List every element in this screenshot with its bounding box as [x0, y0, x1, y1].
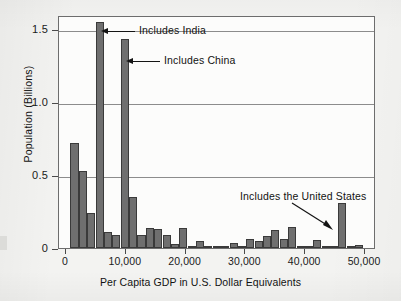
x-tick-mark — [125, 249, 126, 254]
bar — [196, 241, 204, 248]
histogram-bars — [59, 17, 374, 248]
annotation-arrowhead-india — [101, 28, 108, 34]
bar — [338, 203, 346, 248]
bar — [238, 246, 246, 248]
bar — [213, 246, 221, 248]
bar — [96, 22, 104, 248]
x-tick-mark — [304, 249, 305, 254]
plot-area — [58, 16, 375, 249]
x-tick-label: 30,000 — [228, 255, 261, 267]
bar — [163, 235, 171, 248]
annotation-arrowhead-china — [126, 58, 133, 64]
bar — [79, 171, 87, 248]
x-tick-mark — [364, 249, 365, 254]
bar — [347, 246, 355, 248]
y-axis-title: Population (Billions) — [22, 39, 34, 189]
x-tick-mark — [185, 249, 186, 254]
bar — [330, 246, 338, 248]
x-tick-label: 40,000 — [288, 255, 321, 267]
bar — [179, 228, 187, 248]
annotation-label-united-states: Includes the United States — [240, 190, 366, 202]
bar — [263, 236, 271, 248]
x-tick-label: 0 — [62, 255, 68, 267]
y-tick-label: 0 — [2, 242, 48, 254]
x-tick-mark — [244, 249, 245, 254]
bar — [104, 232, 112, 248]
chart-page: 00.51.01.5 010,00020,00030,00040,00050,0… — [0, 0, 401, 301]
bar — [70, 143, 78, 248]
bar — [137, 235, 145, 248]
bar — [146, 228, 154, 248]
bar — [322, 246, 330, 248]
x-axis-title: Per Capita GDP in U.S. Dollar Equivalent… — [0, 276, 401, 288]
bar — [221, 246, 229, 248]
bar — [171, 244, 179, 248]
bar — [112, 235, 120, 248]
bar — [288, 227, 296, 248]
y-tick-label: 1.5 — [2, 23, 48, 35]
annotation-leader-line-india — [108, 31, 135, 32]
annotation-label-india: Includes India — [139, 24, 206, 36]
bar — [280, 239, 288, 248]
y-tick-mark — [52, 249, 58, 250]
bar — [297, 246, 305, 248]
bar — [255, 241, 263, 248]
bar — [204, 246, 212, 248]
bar — [129, 197, 137, 248]
bar — [305, 246, 313, 248]
bar — [230, 243, 238, 248]
annotation-label-china: Includes China — [164, 54, 236, 66]
bar — [271, 230, 279, 248]
bar — [188, 246, 196, 248]
bar — [355, 245, 363, 248]
x-tick-label: 10,000 — [108, 255, 141, 267]
bar — [154, 229, 162, 248]
bar — [87, 213, 95, 248]
x-tick-label: 20,000 — [168, 255, 201, 267]
bar — [313, 240, 321, 248]
bar — [121, 39, 129, 248]
bar — [246, 239, 254, 248]
x-tick-label: 50,000 — [348, 255, 381, 267]
annotation-leader-line-china — [133, 61, 160, 62]
x-tick-mark — [65, 249, 66, 254]
